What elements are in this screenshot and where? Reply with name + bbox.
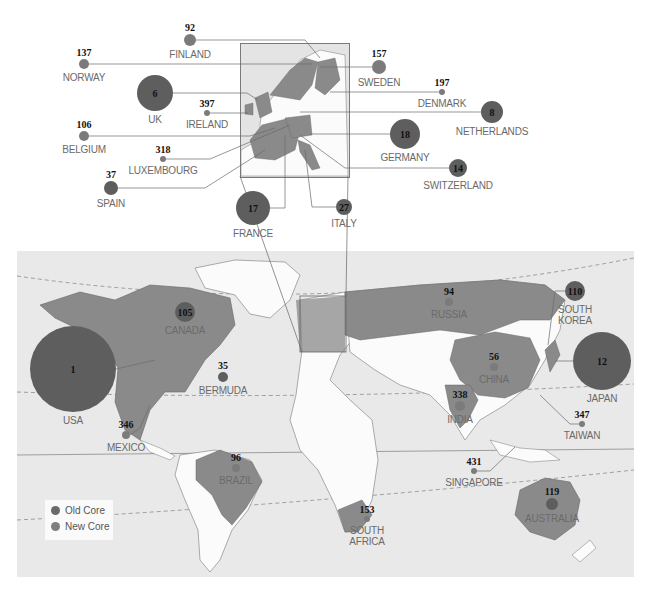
country-label: SOUTHKOREA xyxy=(558,304,592,326)
country-rank: 318 xyxy=(156,144,171,155)
country-rank: 96 xyxy=(231,452,241,463)
country-rank: 346 xyxy=(119,419,134,430)
country-marker-ireland xyxy=(204,110,210,116)
country-rank: 119 xyxy=(545,486,559,497)
country-rank: 17 xyxy=(248,203,258,214)
country-rank: 106 xyxy=(77,119,92,130)
country-rank: 14 xyxy=(453,163,463,174)
country-marker-australia xyxy=(546,498,558,510)
country-label: SWITZERLAND xyxy=(423,180,492,191)
country-marker-russia xyxy=(445,298,453,306)
country-label: JAPAN xyxy=(587,393,618,404)
country-label: BRAZIL xyxy=(219,475,253,486)
country-rank: 94 xyxy=(444,286,454,297)
country-label: AUSTRALIA xyxy=(525,513,579,524)
country-rank: 37 xyxy=(106,169,116,180)
country-rank: 397 xyxy=(200,98,215,109)
new-core-swatch-icon xyxy=(51,522,60,531)
legend-item-new-core: New Core xyxy=(45,518,113,534)
country-marker-finland xyxy=(184,34,196,46)
country-rank: 8 xyxy=(490,107,495,118)
old-core-swatch-icon xyxy=(51,506,60,515)
country-marker-china xyxy=(490,363,498,371)
country-rank: 431 xyxy=(467,456,482,467)
country-label: LUXEMBOURG xyxy=(128,165,197,176)
country-rank: 18 xyxy=(400,129,410,140)
country-label: FINLAND xyxy=(169,49,210,60)
country-marker-singapore xyxy=(471,468,477,474)
country-rank: 6 xyxy=(153,88,158,99)
country-label: BELGIUM xyxy=(62,144,106,155)
country-marker-mexico xyxy=(122,431,130,439)
country-label: INDIA xyxy=(447,414,473,425)
country-label: NETHERLANDS xyxy=(456,126,528,137)
country-marker-luxembourg xyxy=(160,156,166,162)
country-label: BERMUDA xyxy=(199,385,248,396)
country-marker-denmark xyxy=(439,89,445,95)
legend-item-old-core: Old Core xyxy=(45,502,113,518)
country-label: SPAIN xyxy=(97,198,125,209)
country-label: SOUTHAFRICA xyxy=(349,525,384,547)
country-label: ITALY xyxy=(331,218,356,229)
country-label: USA xyxy=(63,415,83,426)
country-rank: 35 xyxy=(218,360,228,371)
country-label: CHINA xyxy=(479,374,509,385)
country-label: SWEDEN xyxy=(358,77,401,88)
country-rank: 157 xyxy=(372,48,387,59)
country-label: GERMANY xyxy=(380,152,429,163)
country-label: NORWAY xyxy=(63,72,106,83)
country-rank: 12 xyxy=(597,356,607,367)
country-rank: 338 xyxy=(453,389,468,400)
country-rank: 1 xyxy=(71,364,76,375)
country-marker-brazil xyxy=(232,464,240,472)
country-marker-norway xyxy=(79,59,89,69)
new-zealand xyxy=(572,540,596,562)
country-rank: 56 xyxy=(489,351,499,362)
country-label: CANADA xyxy=(165,325,205,336)
country-marker-spain xyxy=(104,181,118,195)
country-label: TAIWAN xyxy=(564,430,601,441)
country-marker-india xyxy=(455,401,465,411)
country-rank: 105 xyxy=(178,307,193,318)
europe-highlight xyxy=(296,296,345,352)
country-label: MEXICO xyxy=(107,442,145,453)
legend-label: Old Core xyxy=(65,505,105,516)
country-label: SINGAPORE xyxy=(445,477,503,488)
country-marker-taiwan xyxy=(579,421,585,427)
country-label: FRANCE xyxy=(233,228,273,239)
country-rank: 92 xyxy=(185,22,195,33)
country-label: DENMARK xyxy=(418,98,467,109)
legend-label: New Core xyxy=(65,521,109,532)
country-rank: 197 xyxy=(435,77,450,88)
country-rank: 27 xyxy=(339,202,349,213)
country-marker-south-africa xyxy=(364,516,370,522)
country-label: UK xyxy=(148,114,162,125)
global-cores-map: 92FINLAND137NORWAY6UK397IRELAND106BELGIU… xyxy=(0,0,662,600)
country-marker-bermuda xyxy=(218,372,228,382)
country-rank: 347 xyxy=(575,409,590,420)
country-marker-belgium xyxy=(79,131,89,141)
country-marker-sweden xyxy=(372,60,386,74)
country-label: RUSSIA xyxy=(431,309,467,320)
country-rank: 110 xyxy=(568,286,582,297)
country-rank: 137 xyxy=(77,47,92,58)
legend: Old Core New Core xyxy=(45,500,113,540)
country-rank: 153 xyxy=(360,504,375,515)
country-label: IRELAND xyxy=(186,119,228,130)
